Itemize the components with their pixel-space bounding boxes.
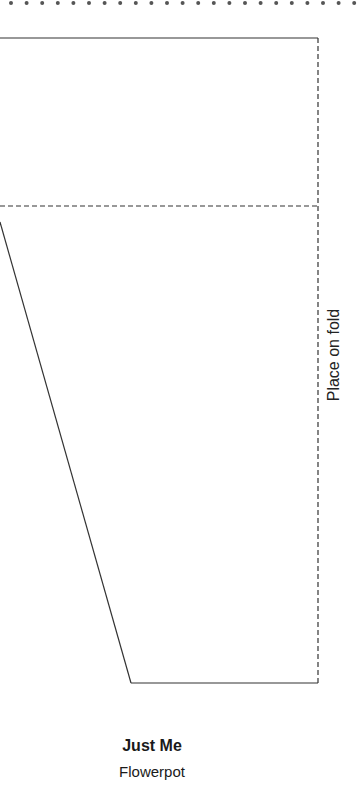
dot — [290, 1, 294, 5]
dot — [103, 1, 107, 5]
dot — [56, 1, 60, 5]
place-on-fold-label: Place on fold — [325, 309, 343, 402]
dot — [212, 1, 216, 5]
dot — [165, 1, 169, 5]
dot — [25, 1, 29, 5]
dot — [134, 1, 138, 5]
dot — [259, 1, 263, 5]
pattern-subtitle: Flowerpot — [119, 763, 185, 780]
pattern-title: Just Me — [122, 737, 182, 755]
dot — [9, 1, 13, 5]
dot — [87, 1, 91, 5]
pattern-piece — [0, 0, 358, 793]
dot — [352, 1, 356, 5]
dot — [181, 1, 185, 5]
side-diagonal-line — [0, 222, 131, 683]
cut-dotted-line — [9, 1, 356, 5]
dot — [321, 1, 325, 5]
dot — [149, 1, 153, 5]
dot — [196, 1, 200, 5]
dot — [227, 1, 231, 5]
dot — [243, 1, 247, 5]
dot — [274, 1, 278, 5]
dot — [337, 1, 341, 5]
dot — [40, 1, 44, 5]
dot — [71, 1, 75, 5]
dot — [118, 1, 122, 5]
dot — [305, 1, 309, 5]
